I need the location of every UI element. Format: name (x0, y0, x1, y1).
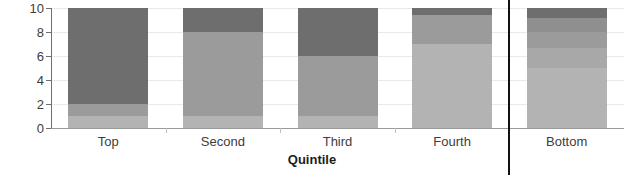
bar-segment (298, 8, 378, 56)
x-tick-mark (280, 128, 281, 133)
y-tick-mark (46, 32, 51, 33)
bar-segment (527, 32, 607, 48)
bar-segment (68, 116, 148, 128)
bar-segment (298, 116, 378, 128)
bar-segment (527, 18, 607, 32)
bar-segment (183, 116, 263, 128)
x-tick-mark (395, 128, 396, 133)
bar-segment (412, 15, 492, 44)
bar-segment (412, 8, 492, 15)
stacked-bar-chart: 0246810 TopSecondThirdFourthBottom Quint… (0, 0, 624, 175)
bar-segment (68, 8, 148, 104)
y-tick-label: 6 (37, 50, 44, 63)
y-axis-line (51, 8, 52, 128)
y-tick-mark (46, 8, 51, 9)
x-tick-label: Top (98, 134, 119, 149)
bar-third (298, 8, 378, 128)
x-tick-mark (166, 128, 167, 133)
y-tick-label: 4 (37, 74, 44, 87)
y-tick-mark (46, 80, 51, 81)
bottom-quintile-divider (508, 0, 510, 175)
bar-segment (68, 104, 148, 116)
y-tick-mark (46, 104, 51, 105)
y-tick-label: 10 (30, 2, 44, 15)
x-tick-label: Fourth (433, 134, 471, 149)
bar-segment (527, 68, 607, 128)
bar-segment (527, 48, 607, 68)
y-tick-label: 0 (37, 122, 44, 135)
bar-fourth (412, 8, 492, 128)
x-tick-label: Third (323, 134, 353, 149)
x-tick-label: Second (201, 134, 245, 149)
x-axis-line (51, 128, 624, 129)
x-tick-label: Bottom (546, 134, 587, 149)
bar-top (68, 8, 148, 128)
bar-segment (183, 8, 263, 32)
y-tick-label: 8 (37, 26, 44, 39)
bar-segment (183, 32, 263, 116)
bar-segment (527, 8, 607, 18)
bar-segment (412, 44, 492, 128)
bar-second (183, 8, 263, 128)
y-tick-mark (46, 128, 51, 129)
y-tick-mark (46, 56, 51, 57)
bar-bottom (527, 8, 607, 128)
x-axis-title: Quintile (0, 152, 624, 167)
bar-segment (298, 56, 378, 116)
y-tick-label: 2 (37, 98, 44, 111)
